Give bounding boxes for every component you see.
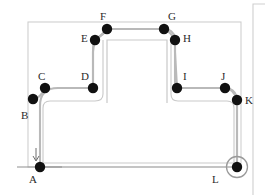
waypoint-label-i: I (183, 71, 187, 82)
waypoint-node-i[interactable] (172, 83, 182, 93)
clearance-corridor-right (171, 40, 234, 167)
waypoint-label-b: B (21, 110, 28, 121)
waypoint-node-h[interactable] (170, 35, 180, 45)
waypoint-label-h: H (183, 33, 191, 44)
waypoint-node-g[interactable] (159, 24, 169, 34)
waypoint-node-a[interactable] (35, 162, 45, 172)
waypoint-label-j: J (221, 71, 225, 82)
waypoint-label-c: C (38, 71, 45, 82)
diagram-canvas: A B C D E F G H I J K L (0, 0, 265, 195)
obstacle-rect (107, 40, 167, 103)
start-arrow (33, 148, 39, 161)
waypoint-label-f: F (100, 11, 106, 22)
waypoint-label-d: D (81, 71, 89, 82)
waypoint-label-a: A (29, 174, 37, 185)
waypoint-node-e[interactable] (90, 35, 100, 45)
waypoint-label-k: K (245, 95, 253, 106)
right-frame-edge (253, 4, 265, 195)
waypoint-node-c[interactable] (40, 83, 50, 93)
main-path (40, 29, 237, 167)
waypoint-node-b[interactable] (28, 94, 38, 104)
waypoint-path-svg (0, 0, 265, 195)
waypoint-node-k[interactable] (232, 95, 242, 105)
waypoint-node-j[interactable] (220, 83, 230, 93)
boundary-rect (28, 22, 241, 167)
segment-d-e (93, 40, 95, 88)
waypoint-label-l: L (212, 174, 219, 185)
waypoint-node-l[interactable] (232, 162, 242, 172)
waypoint-label-e: E (81, 33, 88, 44)
waypoint-node-f[interactable] (102, 24, 112, 34)
waypoint-label-g: G (168, 11, 176, 22)
waypoint-node-d[interactable] (88, 83, 98, 93)
